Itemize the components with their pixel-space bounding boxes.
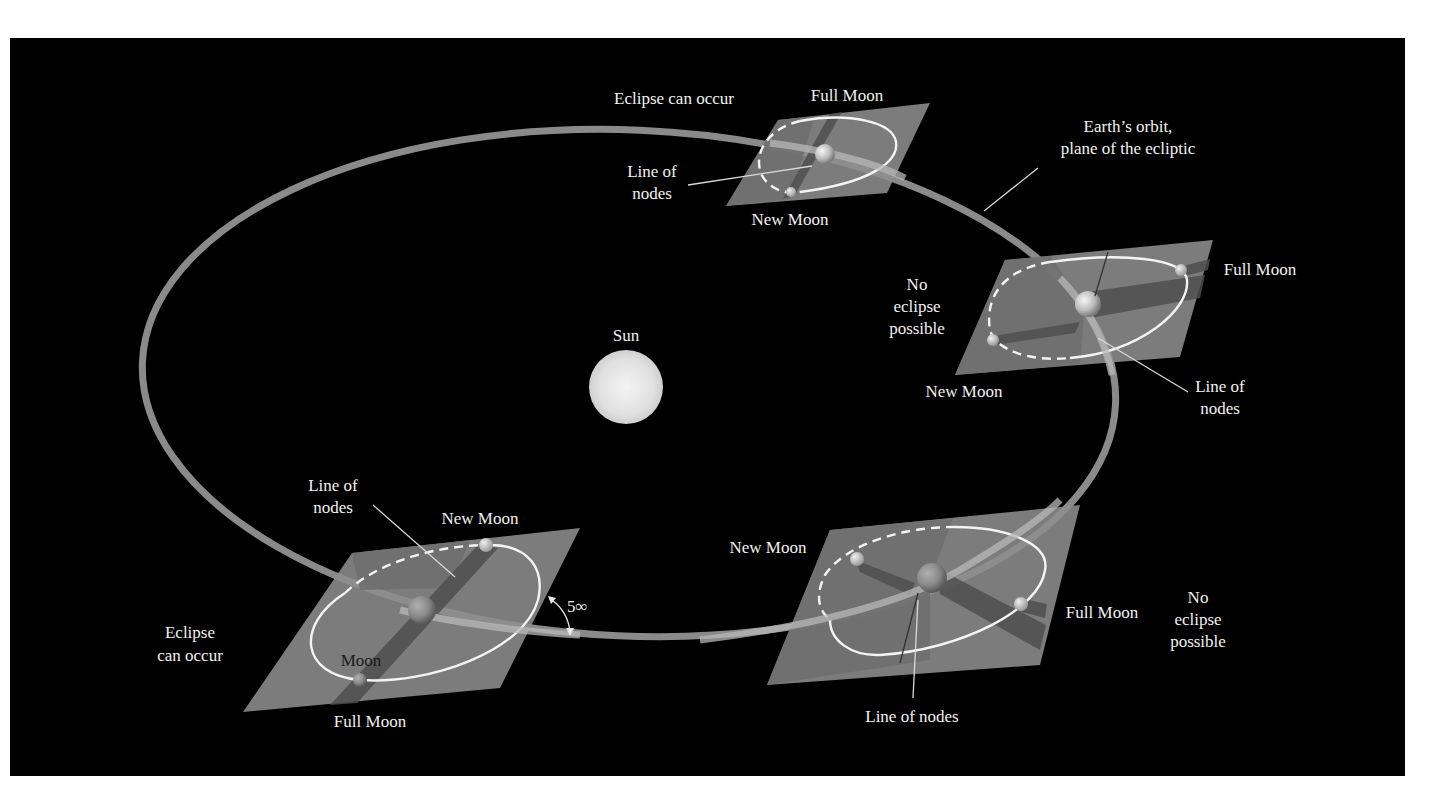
full-moon-label: Full Moon	[1224, 260, 1297, 279]
angle-label: 5∞	[567, 597, 588, 616]
line-of-nodes-label: nodes	[313, 498, 353, 517]
new-moon-label: New Moon	[926, 382, 1003, 401]
line-of-nodes-label: nodes	[632, 184, 672, 203]
eclipse-diagram: Sun Eclipse can occur Full Moon New Moon…	[0, 0, 1432, 785]
condition-label: Eclipse	[165, 623, 215, 642]
sun-label: Sun	[613, 326, 640, 345]
condition-label: possible	[889, 319, 945, 338]
new-moon-icon	[786, 187, 796, 197]
line-of-nodes-label: Line of	[1195, 377, 1245, 396]
full-moon-icon	[1175, 264, 1187, 276]
diagram-panel	[10, 38, 1405, 776]
condition-label: No	[907, 275, 928, 294]
line-of-nodes-label: Line of	[627, 162, 677, 181]
earth-icon	[917, 563, 947, 593]
earth-orbit-label: plane of the ecliptic	[1061, 139, 1196, 158]
condition-label: eclipse	[893, 297, 940, 316]
moon-label: Moon	[341, 651, 382, 670]
line-of-nodes-label: nodes	[1200, 399, 1240, 418]
earth-icon	[815, 144, 835, 164]
line-of-nodes-label: Line of	[308, 476, 358, 495]
full-moon-label: Full Moon	[811, 86, 884, 105]
new-moon-label: New Moon	[752, 210, 829, 229]
full-moon-icon	[1014, 597, 1028, 611]
new-moon-icon	[479, 538, 493, 552]
condition-label: Eclipse can occur	[614, 89, 734, 108]
line-of-nodes-label: Line of nodes	[865, 707, 958, 726]
new-moon-icon	[987, 334, 999, 346]
condition-label: No	[1188, 588, 1209, 607]
new-moon-icon	[850, 552, 864, 566]
new-moon-label: New Moon	[730, 538, 807, 557]
condition-label: can occur	[157, 646, 223, 665]
full-moon-label: Full Moon	[334, 712, 407, 731]
earth-icon	[1075, 291, 1101, 317]
sun-icon	[589, 350, 663, 424]
condition-label: eclipse	[1174, 610, 1221, 629]
condition-label: possible	[1170, 632, 1226, 651]
full-moon-label: Full Moon	[1066, 603, 1139, 622]
earth-icon	[408, 596, 436, 624]
full-moon-icon	[353, 673, 367, 687]
new-moon-label: New Moon	[442, 509, 519, 528]
earth-orbit-label: Earth’s orbit,	[1084, 117, 1173, 136]
